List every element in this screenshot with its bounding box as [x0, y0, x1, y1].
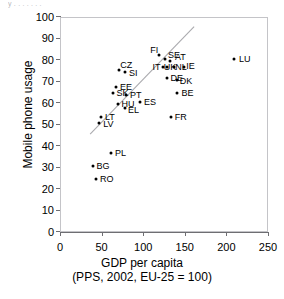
data-point-label: ES — [144, 97, 156, 106]
data-point — [99, 115, 102, 118]
x-tick-label: 0 — [57, 242, 63, 253]
x-axis-title: GDP per capita (PPS, 2002, EU-25 = 100) — [0, 256, 284, 284]
x-axis-title-line1: GDP per capita — [101, 256, 183, 270]
y-tick-label: 60 — [42, 98, 54, 109]
x-tick-label: 200 — [217, 242, 235, 253]
data-point — [124, 70, 127, 73]
x-axis-title-line2: (PPS, 2002, EU-25 = 100) — [0, 270, 284, 284]
y-axis-title: Mobile phone usage — [22, 40, 35, 190]
data-point — [164, 57, 167, 60]
scatter-chart-figure: y . . . . . . . LUFISEATCZSIITUKNLIEDEDK… — [0, 0, 284, 299]
data-point — [124, 107, 127, 110]
data-point-label: EL — [128, 106, 139, 115]
data-point-label: SI — [129, 68, 138, 77]
data-point — [91, 165, 94, 168]
data-point-label: LV — [103, 120, 113, 129]
data-point-label: RO — [100, 175, 114, 184]
x-tick-label: 100 — [134, 242, 152, 253]
y-tick-label: 50 — [42, 119, 54, 130]
data-point — [139, 100, 142, 103]
data-point — [109, 152, 112, 155]
data-point — [94, 178, 97, 181]
data-point — [169, 115, 172, 118]
y-tick-label: 70 — [42, 76, 54, 87]
x-tick-label: 50 — [95, 242, 107, 253]
plot-area: LUFISEATCZSIITUKNLIEDEDKEESKPTBEHUELESFR… — [60, 17, 268, 232]
y-tick-label: 20 — [42, 184, 54, 195]
data-point — [124, 94, 127, 97]
data-point-label: BE — [181, 89, 193, 98]
data-point — [98, 122, 101, 125]
data-point-label: IE — [186, 62, 195, 71]
data-point — [116, 103, 119, 106]
y-tick-label: 90 — [42, 33, 54, 44]
data-point-label: BG — [97, 162, 110, 171]
y-tick-label: 10 — [42, 205, 54, 216]
y-tick-label: 30 — [42, 162, 54, 173]
data-point-label: PL — [115, 149, 126, 158]
data-point-label: LU — [239, 54, 251, 63]
y-tick-label: 40 — [42, 141, 54, 152]
data-point — [166, 77, 169, 80]
data-point — [176, 92, 179, 95]
data-point — [233, 57, 236, 60]
trendline — [61, 18, 269, 233]
y-tick-label: 80 — [42, 55, 54, 66]
data-point-label: AT — [175, 53, 186, 62]
data-point — [175, 79, 178, 82]
data-point-label: DK — [180, 77, 193, 86]
data-point-label: IT — [153, 63, 161, 72]
y-tick-label: 100 — [36, 12, 54, 23]
plot-inner: LUFISEATCZSIITUKNLIEDEDKEESKPTBEHUELESFR… — [61, 18, 267, 231]
data-point-label: FR — [175, 112, 187, 121]
data-point — [111, 92, 114, 95]
x-tick-label: 150 — [176, 242, 194, 253]
x-tick-label: 250 — [259, 242, 277, 253]
x-tick-label-group: 050100150200250 — [0, 236, 284, 256]
data-point-label: FI — [150, 45, 158, 54]
